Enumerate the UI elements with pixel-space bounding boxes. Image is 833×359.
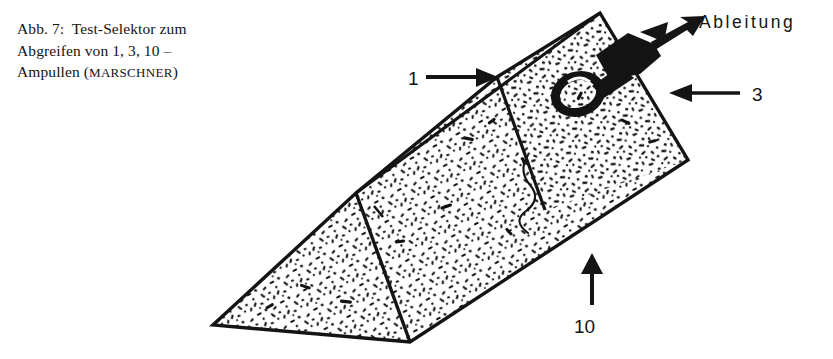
- prism-drawing: 1 3 10 Ableitung: [0, 0, 833, 359]
- label-outlet: Ableitung: [699, 12, 795, 32]
- label-inlet: 1: [408, 68, 419, 89]
- label-bottom: 10: [574, 316, 595, 337]
- label-middle: 3: [752, 84, 763, 105]
- figure-root: Abb. 7: Test-Selektor zum Abgreifen von …: [0, 0, 833, 359]
- arrow-bottom: [581, 253, 603, 305]
- arrow-middle: [669, 84, 740, 102]
